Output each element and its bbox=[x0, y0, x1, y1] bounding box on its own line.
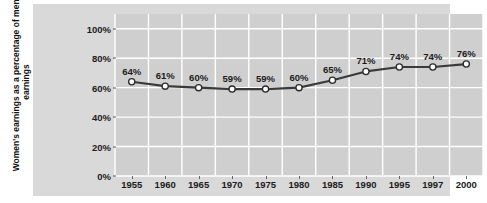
data-point-marker bbox=[363, 68, 369, 74]
y-axis-title: Women's earnings as a percentage of men'… bbox=[6, 0, 36, 172]
data-point-label: 65% bbox=[323, 64, 342, 75]
y-axis-ticks: 0%20%40%60%80%100% bbox=[67, 14, 111, 176]
x-axis-tick-mark bbox=[299, 176, 300, 179]
y-axis-tick-label: 100% bbox=[71, 23, 111, 34]
data-point-label: 60% bbox=[289, 72, 308, 83]
y-axis-tick-label: 60% bbox=[71, 82, 111, 93]
data-point-label: 74% bbox=[390, 51, 409, 62]
y-axis-tick-label: 80% bbox=[71, 53, 111, 64]
data-point-label: 74% bbox=[423, 51, 442, 62]
x-axis-tick-mark bbox=[366, 176, 367, 179]
data-point-marker bbox=[329, 77, 335, 83]
plot-area bbox=[115, 14, 483, 176]
y-axis-tick-mark bbox=[113, 117, 116, 118]
data-point-marker bbox=[129, 79, 135, 85]
y-axis-tick-mark bbox=[113, 28, 116, 29]
x-axis-tick-mark bbox=[466, 176, 467, 179]
data-point-marker bbox=[296, 85, 302, 91]
y-axis-tick-mark bbox=[113, 87, 116, 88]
data-point-marker bbox=[162, 83, 168, 89]
data-point-label: 60% bbox=[189, 72, 208, 83]
data-point-label: 61% bbox=[156, 70, 175, 81]
plot-svg bbox=[115, 14, 483, 176]
data-point-label: 64% bbox=[122, 66, 141, 77]
x-axis-tick-mark bbox=[433, 176, 434, 179]
x-axis-tick-mark bbox=[165, 176, 166, 179]
data-point-marker bbox=[196, 85, 202, 91]
x-axis-tick-mark bbox=[266, 176, 267, 179]
data-point-marker bbox=[396, 64, 402, 70]
x-axis-tick-mark bbox=[232, 176, 233, 179]
data-point-label: 59% bbox=[223, 73, 242, 84]
x-axis-tick-mark bbox=[199, 176, 200, 179]
data-point-label: 76% bbox=[457, 48, 476, 59]
data-point-marker bbox=[262, 86, 268, 92]
data-point-label: 71% bbox=[356, 55, 375, 66]
y-axis-tick-mark bbox=[113, 176, 116, 177]
data-point-marker bbox=[430, 64, 436, 70]
chart-panel: 0%20%40%60%80%100% 195519601965197019751… bbox=[33, 4, 450, 196]
gridlines bbox=[115, 14, 483, 176]
x-axis-tick-mark bbox=[132, 176, 133, 179]
data-point-marker bbox=[463, 61, 469, 67]
x-axis-ticks: 1955196019651970197519801985199019951997… bbox=[115, 179, 483, 195]
y-axis-tick-label: 0% bbox=[71, 171, 111, 182]
y-axis-tick-label: 20% bbox=[71, 141, 111, 152]
data-point-marker bbox=[229, 86, 235, 92]
y-axis-tick-mark bbox=[113, 58, 116, 59]
x-axis-tick-mark bbox=[332, 176, 333, 179]
data-point-label: 59% bbox=[256, 73, 275, 84]
y-axis-tick-mark bbox=[113, 146, 116, 147]
x-axis-tick-mark bbox=[399, 176, 400, 179]
x-axis-tick-label: 2000 bbox=[444, 179, 487, 190]
y-axis-tick-label: 40% bbox=[71, 112, 111, 123]
